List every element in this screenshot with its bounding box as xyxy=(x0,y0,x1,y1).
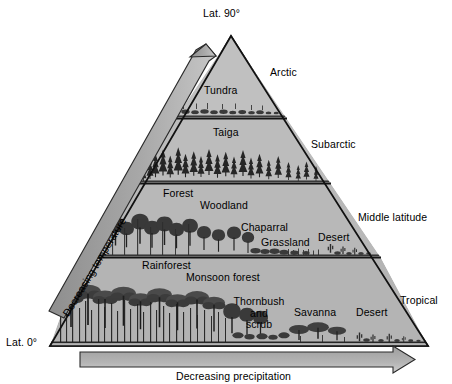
biome-label-desert-tropical: Desert xyxy=(356,306,388,318)
biome-label-grassland: Grassland xyxy=(261,236,310,248)
thornbush-line-3: scrub xyxy=(228,319,290,331)
base-latitude-label: Lat. 0° xyxy=(6,336,37,348)
biome-label-thornbush-scrub: Thornbush and scrub xyxy=(228,296,290,331)
zone-label-middle-latitude: Middle latitude xyxy=(358,211,427,223)
decreasing-precipitation-arrow xyxy=(80,346,415,373)
biome-label-desert-middle: Desert xyxy=(318,231,350,243)
zone-label-tropical: Tropical xyxy=(400,294,438,306)
decreasing-precipitation-label: Decreasing precipitation xyxy=(176,370,291,382)
zone-label-subarctic: Subarctic xyxy=(311,138,356,150)
biome-label-taiga: Taiga xyxy=(213,126,239,138)
biome-label-tundra: Tundra xyxy=(204,84,237,96)
biome-label-chaparral: Chaparral xyxy=(241,221,288,233)
thornbush-line-1: Thornbush xyxy=(228,296,290,308)
biome-label-savanna: Savanna xyxy=(294,306,336,318)
apex-latitude-label: Lat. 90° xyxy=(203,7,240,19)
biome-label-rainforest: Rainforest xyxy=(142,259,191,271)
biome-label-forest: Forest xyxy=(163,187,193,199)
zone-label-arctic: Arctic xyxy=(270,66,297,78)
biome-pyramid-diagram xyxy=(0,0,452,384)
biome-label-woodland: Woodland xyxy=(200,199,248,211)
biome-label-monsoon-forest: Monsoon forest xyxy=(186,271,260,283)
